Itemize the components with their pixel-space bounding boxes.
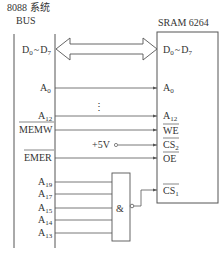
data-bus-double-arrow: [56, 38, 157, 60]
vcc-label: +5V: [92, 139, 111, 150]
decoder-input-a17: A17: [38, 188, 112, 201]
sram-data-label: D0~D7: [163, 44, 192, 57]
bus-a12-label: A12: [38, 110, 53, 123]
cs1-line: [134, 190, 157, 206]
memory-interface-diagram: 8088 系统 BUS SRAM 6264 D0~D7 D0~D7 A0 A0 …: [0, 0, 224, 265]
bus-a0-label: A0: [40, 82, 51, 95]
we-label: WE: [163, 125, 179, 136]
svg-text:A13: A13: [38, 227, 53, 240]
decoder-input-a19: A19: [38, 176, 112, 189]
svg-text:A14: A14: [38, 214, 53, 227]
decoder-input-a15: A15: [38, 202, 112, 215]
memw-label: MEMW: [19, 124, 53, 135]
sram-title: SRAM 6264: [158, 17, 209, 28]
decoder-input-a13: A13: [38, 227, 112, 240]
vcc-terminal: [114, 143, 117, 146]
nand-gate-symbol: &: [116, 203, 124, 214]
bus-data-label: D0~D7: [22, 44, 51, 57]
cs2-label: CS2: [163, 139, 179, 152]
bus-title-line1: 8088 系统: [7, 1, 50, 13]
emer-label: EMER: [24, 152, 52, 163]
decoder-input-a14: A14: [38, 214, 112, 227]
sram-a0-label: A0: [163, 82, 174, 95]
bus-title-line2: BUS: [16, 15, 35, 26]
inverter-bubble: [130, 204, 134, 208]
cs1-label: CS1: [163, 185, 179, 198]
oe-label: OE: [163, 153, 176, 164]
sram-a12-label: A12: [163, 110, 178, 123]
svg-text:A17: A17: [38, 188, 53, 201]
address-ellipsis: ⋮: [94, 101, 104, 112]
